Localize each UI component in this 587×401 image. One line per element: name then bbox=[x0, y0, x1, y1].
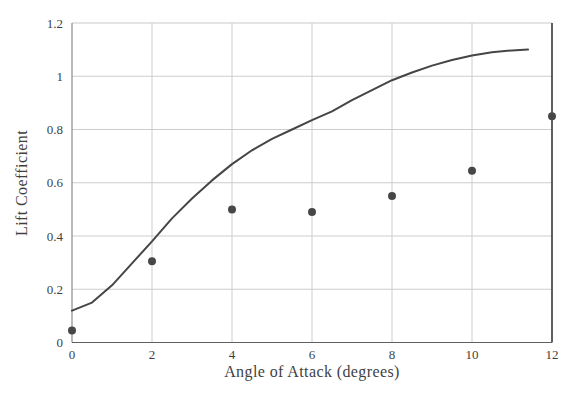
y-tick-label: 0.2 bbox=[47, 282, 63, 297]
x-tick-label: 0 bbox=[69, 347, 76, 362]
y-axis-title: Lift Coefficient bbox=[13, 130, 31, 236]
y-tick-label: 0.4 bbox=[47, 229, 64, 244]
x-tick-label: 6 bbox=[309, 347, 316, 362]
lift-coefficient-chart: 00.20.40.60.811.2024681012 Lift Coeffici… bbox=[0, 0, 587, 401]
x-tick-label: 12 bbox=[546, 347, 559, 362]
data-point-marker bbox=[468, 167, 476, 175]
data-point-marker bbox=[308, 208, 316, 216]
y-tick-label: 0 bbox=[57, 335, 64, 350]
data-point-marker bbox=[548, 112, 556, 120]
data-point-marker bbox=[228, 205, 236, 213]
data-point-marker bbox=[148, 257, 156, 265]
y-tick-label: 0.6 bbox=[47, 175, 64, 190]
chart-plot-area: 00.20.40.60.811.2024681012 bbox=[0, 0, 587, 401]
y-tick-label: 1.2 bbox=[47, 16, 63, 31]
x-tick-label: 2 bbox=[149, 347, 156, 362]
x-tick-label: 8 bbox=[389, 347, 396, 362]
y-tick-label: 0.8 bbox=[47, 122, 63, 137]
data-point-marker bbox=[68, 327, 76, 335]
x-tick-label: 4 bbox=[229, 347, 236, 362]
lift-curve-line bbox=[72, 50, 528, 311]
data-point-marker bbox=[388, 192, 396, 200]
x-tick-label: 10 bbox=[466, 347, 479, 362]
y-tick-label: 1 bbox=[57, 69, 64, 84]
x-axis-title: Angle of Attack (degrees) bbox=[224, 363, 400, 381]
